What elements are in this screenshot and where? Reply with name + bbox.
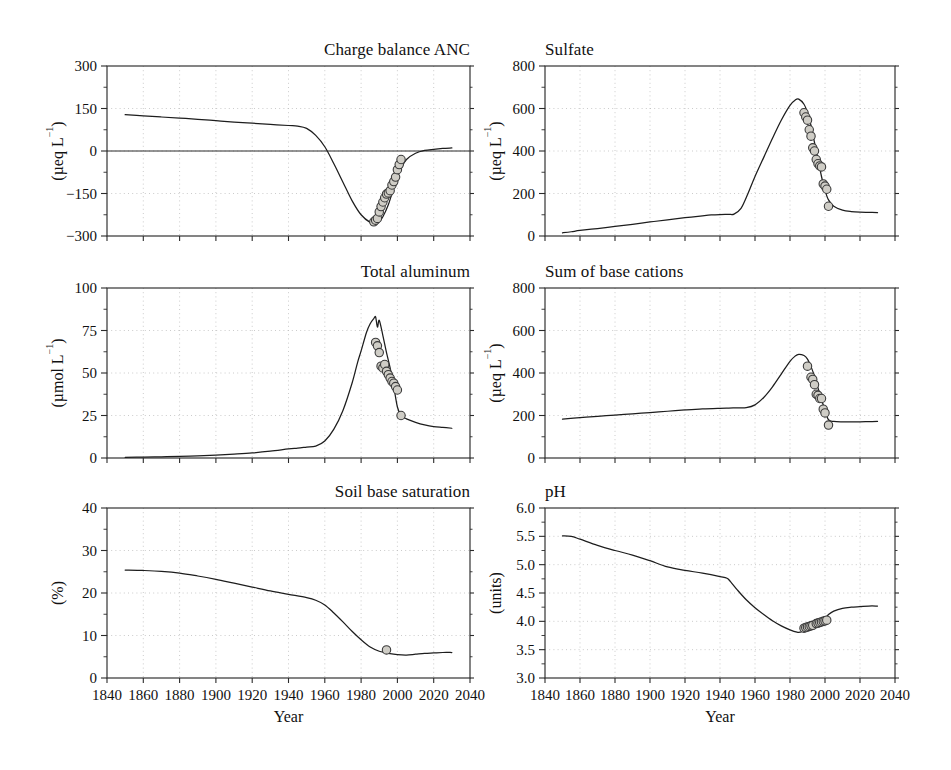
observation-point [393, 386, 401, 394]
svg-text:200: 200 [513, 186, 536, 202]
gridlines [107, 508, 470, 678]
svg-text:1980: 1980 [775, 687, 805, 703]
svg-text:10: 10 [82, 628, 97, 644]
y-axis-label: (µeq L−1) [482, 121, 506, 180]
svg-text:1940: 1940 [274, 687, 304, 703]
svg-text:2000: 2000 [382, 687, 412, 703]
svg-text:150: 150 [75, 101, 98, 117]
svg-text:1960: 1960 [310, 687, 340, 703]
svg-text:−300: −300 [66, 228, 97, 244]
y-tick-labels: −300−1500150300 [66, 58, 97, 244]
observation-markers [371, 338, 405, 420]
svg-text:75: 75 [82, 323, 97, 339]
svg-text:200: 200 [513, 408, 536, 424]
observation-point [803, 362, 811, 370]
svg-text:−150: −150 [66, 186, 97, 202]
svg-text:1920: 1920 [670, 687, 700, 703]
panel-title-soil-base-saturation: Soil base saturation [335, 482, 470, 502]
observation-point [824, 202, 832, 210]
svg-text:0: 0 [90, 450, 98, 466]
y-tick-labels: 0255075100 [75, 280, 98, 466]
observation-point [803, 116, 811, 124]
observation-point [824, 421, 832, 429]
observation-point [823, 185, 831, 193]
observation-point [817, 163, 825, 171]
svg-text:2040: 2040 [880, 687, 910, 703]
observation-point [397, 155, 405, 163]
tickmarks [101, 66, 474, 241]
svg-text:400: 400 [513, 365, 536, 381]
svg-text:50: 50 [82, 365, 97, 381]
x-tick-labels: 1840186018801900192019401960198020002020… [530, 687, 910, 703]
svg-text:6.0: 6.0 [516, 500, 535, 516]
panel-title-total-aluminum: Total aluminum [361, 262, 470, 282]
svg-text:1840: 1840 [530, 687, 560, 703]
y-axis-label: (µeq L−1) [44, 121, 68, 180]
panel-title-sulfate: Sulfate [545, 40, 594, 60]
svg-text:3.5: 3.5 [516, 642, 535, 658]
figure-root: Charge balance ANC−300−1500150300(µeq L−… [0, 0, 951, 770]
tickmarks [539, 288, 899, 463]
svg-text:1940: 1940 [705, 687, 735, 703]
svg-text:40: 40 [82, 500, 97, 516]
plot-ph: 3.03.54.04.55.05.56.01840186018801900192… [475, 482, 907, 724]
y-tick-labels: 0200400600800 [513, 280, 536, 466]
y-axis-label: (%) [49, 581, 67, 605]
panel-title-sum-of-base-cations: Sum of base cations [545, 262, 683, 282]
svg-text:1880: 1880 [600, 687, 630, 703]
svg-text:0: 0 [528, 228, 536, 244]
observation-point [821, 409, 829, 417]
svg-text:0: 0 [90, 670, 98, 686]
svg-text:800: 800 [513, 58, 536, 74]
panel-total-aluminum: Total aluminum0255075100(µmol L−1) [37, 262, 482, 504]
panel-title-charge-balance-anc: Charge balance ANC [324, 40, 470, 60]
gridlines [545, 508, 895, 678]
observation-point [810, 380, 818, 388]
observation-markers [800, 616, 831, 632]
panel-sum-of-base-cations: Sum of base cations0200400600800(µeq L−1… [475, 262, 907, 504]
svg-text:2020: 2020 [419, 687, 449, 703]
svg-text:0: 0 [90, 143, 98, 159]
svg-text:5.5: 5.5 [516, 528, 535, 544]
svg-text:30: 30 [82, 543, 97, 559]
y-tick-labels: 010203040 [82, 500, 97, 686]
panel-sulfate: Sulfate0200400600800(µeq L−1) [475, 40, 907, 282]
observation-point [397, 411, 405, 419]
svg-text:1960: 1960 [740, 687, 770, 703]
x-axis-label: Year [274, 708, 304, 725]
svg-text:1860: 1860 [128, 687, 158, 703]
plot-charge-balance-anc: −300−1500150300(µeq L−1) [37, 40, 482, 282]
svg-text:1840: 1840 [92, 687, 122, 703]
plot-sum-of-base-cations: 0200400600800(µeq L−1) [475, 262, 907, 504]
observation-point [817, 394, 825, 402]
panel-title-ph: pH [545, 482, 566, 502]
svg-text:2000: 2000 [810, 687, 840, 703]
svg-text:600: 600 [513, 323, 536, 339]
svg-text:800: 800 [513, 280, 536, 296]
gridlines [545, 288, 895, 458]
svg-text:1900: 1900 [635, 687, 665, 703]
tickmarks [539, 508, 899, 683]
svg-text:0: 0 [528, 450, 536, 466]
y-tick-labels: 3.03.54.04.55.05.56.0 [516, 500, 535, 686]
gridlines [107, 288, 470, 458]
y-tick-labels: 0200400600800 [513, 58, 536, 244]
tickmarks [101, 508, 474, 683]
svg-text:1900: 1900 [201, 687, 231, 703]
svg-text:400: 400 [513, 143, 536, 159]
svg-text:25: 25 [82, 408, 97, 424]
svg-text:4.0: 4.0 [516, 613, 535, 629]
svg-text:600: 600 [513, 101, 536, 117]
observation-point [807, 132, 815, 140]
observation-markers [800, 109, 833, 211]
svg-text:20: 20 [82, 585, 97, 601]
observation-markers [382, 646, 390, 654]
svg-text:1880: 1880 [165, 687, 195, 703]
plot-soil-base-saturation: 0102030401840186018801900192019401960198… [37, 482, 482, 724]
plot-total-aluminum: 0255075100(µmol L−1) [37, 262, 482, 504]
plot-sulfate: 0200400600800(µeq L−1) [475, 40, 907, 282]
model-curve [125, 115, 452, 224]
observation-point [375, 348, 383, 356]
svg-text:5.0: 5.0 [516, 557, 535, 573]
observation-point [382, 646, 390, 654]
